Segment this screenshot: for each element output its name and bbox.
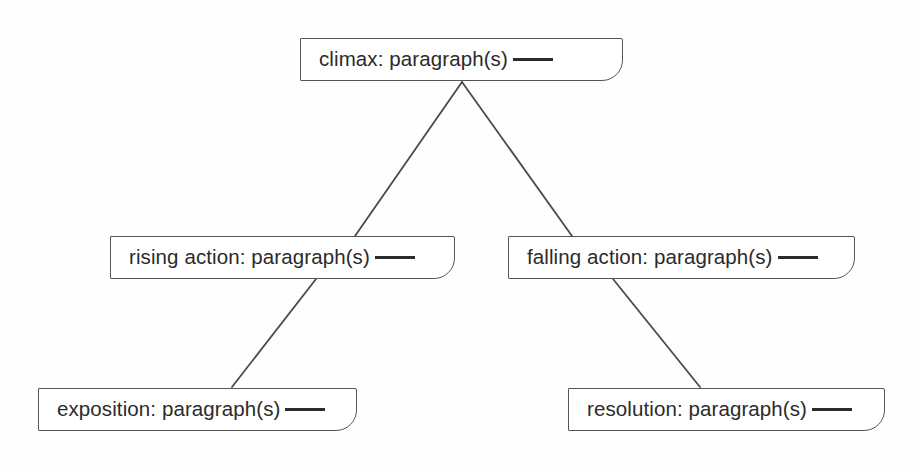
node-falling-action-label: falling action: paragraph(s)	[527, 247, 773, 268]
node-exposition-blank[interactable]	[285, 408, 325, 411]
node-rising-action[interactable]: rising action: paragraph(s)	[110, 236, 455, 279]
node-climax[interactable]: climax: paragraph(s)	[300, 38, 623, 81]
node-resolution-blank[interactable]	[812, 408, 852, 411]
connector-falling-action-to-resolution	[613, 279, 700, 387]
node-climax-blank[interactable]	[513, 58, 553, 61]
connector-rising-action-to-exposition	[232, 279, 316, 387]
node-exposition[interactable]: exposition: paragraph(s)	[38, 388, 357, 431]
node-falling-action[interactable]: falling action: paragraph(s)	[508, 236, 855, 279]
node-rising-action-label: rising action: paragraph(s)	[129, 247, 370, 268]
node-resolution-label: resolution: paragraph(s)	[587, 399, 807, 420]
node-resolution[interactable]: resolution: paragraph(s)	[568, 388, 885, 431]
node-exposition-label: exposition: paragraph(s)	[57, 399, 280, 420]
connector-climax-to-falling-action	[462, 82, 572, 236]
node-rising-action-blank[interactable]	[375, 256, 415, 259]
node-falling-action-blank[interactable]	[778, 256, 818, 259]
node-climax-label: climax: paragraph(s)	[319, 49, 508, 70]
plot-structure-diagram: climax: paragraph(s) rising action: para…	[0, 0, 916, 472]
connector-climax-to-rising-action	[355, 82, 462, 236]
